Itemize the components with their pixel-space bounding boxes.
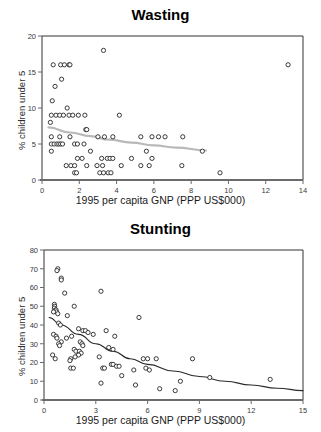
- svg-text:20: 20: [28, 32, 36, 41]
- svg-text:15: 15: [28, 68, 36, 77]
- svg-text:70: 70: [30, 265, 38, 274]
- plot-area-stunting: 0369121501020304050607080: [0, 216, 321, 432]
- svg-text:5: 5: [32, 140, 36, 149]
- x-axis-label-stunting: 1995 per capita GNP (PPP US$000): [0, 414, 321, 426]
- svg-text:50: 50: [30, 302, 38, 311]
- chart-panel-wasting: Wasting % children under 5 0246810121405…: [0, 0, 321, 216]
- svg-text:10: 10: [28, 104, 36, 113]
- svg-text:40: 40: [30, 321, 38, 330]
- svg-text:80: 80: [30, 246, 38, 255]
- chart-panel-stunting: Stunting % children under 5 036912150102…: [0, 216, 321, 432]
- svg-text:0: 0: [32, 176, 36, 185]
- svg-text:10: 10: [30, 377, 38, 386]
- svg-text:20: 20: [30, 358, 38, 367]
- plot-area-wasting: 0246810121405101520: [0, 0, 321, 216]
- svg-text:0: 0: [34, 396, 38, 405]
- svg-text:30: 30: [30, 340, 38, 349]
- nutrition-scatter-figure: Wasting % children under 5 0246810121405…: [0, 0, 321, 432]
- x-axis-label-wasting: 1995 per capita GNP (PPP US$000): [0, 194, 321, 206]
- svg-text:60: 60: [30, 283, 38, 292]
